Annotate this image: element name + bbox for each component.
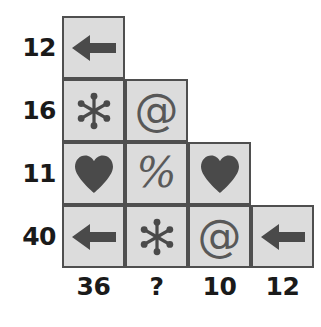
grid-cell-r3c2[interactable]: @ (188, 205, 251, 268)
col-label-1: ? (125, 272, 188, 301)
grid-cell-r2c2[interactable] (188, 142, 251, 205)
grid-cell-r3c1[interactable] (125, 205, 188, 268)
percent-sign-icon: % (137, 152, 177, 194)
heart-icon (199, 154, 241, 194)
row-label-2: 11 (0, 142, 56, 205)
grid-cell-r0c0[interactable] (62, 16, 125, 79)
grid-cell-r1c0[interactable] (62, 79, 125, 142)
col-label-0: 36 (62, 272, 125, 301)
left-arrow-icon (70, 33, 118, 63)
asterisk-star-icon (75, 92, 113, 130)
grid-cell-r2c1[interactable]: % (125, 142, 188, 205)
grid-cell-r1c1[interactable]: @ (125, 79, 188, 142)
grid-cell-r3c3[interactable] (251, 205, 314, 268)
grid-cell-r2c0[interactable] (62, 142, 125, 205)
grid-cell-r3c0[interactable] (62, 205, 125, 268)
row-label-0: 12 (0, 16, 56, 79)
asterisk-star-icon (138, 218, 176, 256)
left-arrow-icon (259, 222, 307, 252)
heart-icon (73, 154, 115, 194)
at-sign-icon: @ (135, 88, 179, 132)
row-label-1: 16 (0, 79, 56, 142)
col-label-2: 10 (188, 272, 251, 301)
puzzle-container: 12 16 11 40 (0, 0, 321, 327)
left-arrow-icon (70, 222, 118, 252)
row-label-3: 40 (0, 205, 56, 268)
at-sign-icon: @ (198, 214, 242, 258)
col-label-3: 12 (251, 272, 314, 301)
